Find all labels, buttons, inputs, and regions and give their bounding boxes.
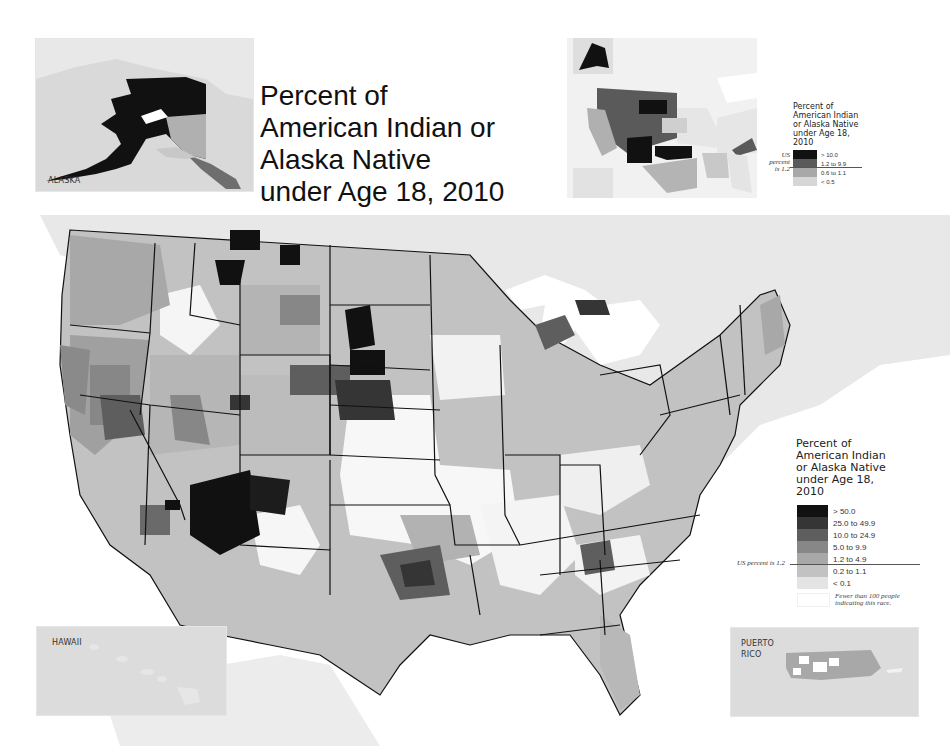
state-legend-divider (790, 167, 862, 168)
legend-label: > 10.0 (821, 152, 838, 158)
title-line-4: under Age 18, 2010 (260, 176, 504, 208)
page-title: Percent of American Indian or Alaska Nat… (260, 80, 504, 208)
legend-label: < 0.1 (833, 579, 851, 588)
us-percent-line: is 1.2 (760, 166, 790, 173)
alaska-map (36, 39, 253, 191)
legend-swatch (797, 529, 828, 541)
legend-label: 0.2 to 1.1 (833, 567, 866, 576)
puerto-rico-inset: PUERTO RICO (730, 627, 919, 717)
legend-swatch (797, 505, 828, 517)
state-minimap-svg (567, 38, 757, 198)
main-legend-item: 0.2 to 1.1 (797, 565, 900, 577)
legend-swatch (797, 577, 828, 589)
state-legend-us-percent: US percent is 1.2 (760, 152, 790, 173)
legend-label: 1.2 to 9.9 (821, 161, 846, 167)
main-legend-item: > 50.0 (797, 505, 900, 517)
hawaii-inset: HAWAII (36, 626, 227, 716)
legend-swatch (793, 168, 817, 177)
legend-label: 1.2 to 4.9 (833, 555, 866, 564)
legend-swatch (797, 565, 828, 577)
legend-label: > 50.0 (833, 507, 855, 516)
legend-label: 0.6 to 1.1 (821, 170, 846, 176)
puerto-rico-label-line: PUERTO (741, 638, 774, 649)
legend-swatch-white (797, 593, 830, 607)
state-legend-title: Percent of American Indian or Alaska Nat… (793, 102, 893, 147)
main-legend-title-line: 2010 (796, 486, 946, 498)
state-legend-title-line: American Indian (793, 111, 893, 120)
main-legend-item-fewer: Fewer than 100 people indicating this ra… (797, 592, 900, 608)
legend-label: 5.0 to 9.9 (833, 543, 866, 552)
puerto-rico-label-line: RICO (741, 649, 774, 660)
main-legend-item: 10.0 to 24.9 (797, 529, 900, 541)
state-legend: Percent of American Indian or Alaska Nat… (793, 102, 893, 147)
alaska-inset: ALASKA (35, 38, 254, 192)
state-legend-title-line: Percent of (793, 102, 893, 111)
main-legend-title: Percent of American Indian or Alaska Nat… (796, 438, 946, 498)
main-legend: Percent of American Indian or Alaska Nat… (796, 438, 946, 498)
title-line-1: Percent of (260, 80, 504, 112)
state-legend-item: < 0.5 (793, 177, 846, 186)
legend-swatch (797, 517, 828, 529)
main-legend-item: < 0.1 (797, 577, 900, 589)
legend-label: < 0.5 (821, 179, 835, 185)
hawaii-label: HAWAII (52, 638, 82, 647)
state-legend-item: 0.6 to 1.1 (793, 168, 846, 177)
title-line-2: American Indian or (260, 112, 504, 144)
main-legend-divider (790, 564, 920, 565)
fewer-note-line: indicating this race. (835, 600, 900, 607)
legend-swatch (793, 177, 817, 186)
state-level-minimap (567, 38, 757, 198)
state-legend-item: > 10.0 (793, 150, 846, 159)
title-line-3: Alaska Native (260, 144, 504, 176)
main-legend-us-percent: US percent is 1.2 (737, 559, 785, 567)
legend-swatch (797, 541, 828, 553)
alaska-label: ALASKA (48, 176, 80, 185)
state-legend-title-line: under Age 18, (793, 129, 893, 138)
legend-label: 25.0 to 49.9 (833, 519, 875, 528)
main-legend-item: 25.0 to 49.9 (797, 517, 900, 529)
state-legend-title-line: 2010 (793, 138, 893, 147)
legend-label: 10.0 to 24.9 (833, 531, 875, 540)
main-legend-items: > 50.0 25.0 to 49.9 10.0 to 24.9 5.0 to … (797, 505, 900, 608)
state-legend-title-line: or Alaska Native (793, 120, 893, 129)
legend-swatch (793, 150, 817, 159)
fewer-note: Fewer than 100 people indicating this ra… (835, 593, 900, 607)
main-legend-item: 5.0 to 9.9 (797, 541, 900, 553)
state-legend-items: > 10.0 1.2 to 9.9 0.6 to 1.1 < 0.5 (793, 150, 846, 186)
puerto-rico-label: PUERTO RICO (741, 638, 774, 660)
